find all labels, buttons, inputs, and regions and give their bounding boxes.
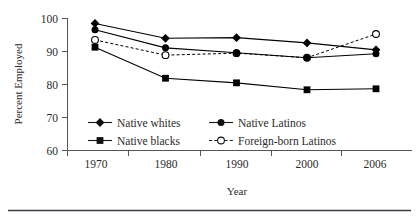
legend-item-native-latinos[interactable]: Native Latinos (209, 117, 307, 129)
legend-label: Native blacks (117, 135, 180, 147)
x-tick-label: 1990 (226, 158, 249, 170)
series-markers (91, 19, 381, 54)
y-tick-label: 80 (47, 79, 59, 91)
filled-diamond-icon (96, 118, 105, 127)
y-axis-ticks (62, 19, 68, 151)
series-native-whites (91, 19, 381, 54)
figure-container: 100 90 80 70 60 1970 1980 1990 2000 2006… (0, 0, 419, 222)
legend-item-foreign-born-latinos[interactable]: Foreign-born Latinos (209, 135, 337, 148)
data-point-marker (162, 75, 169, 82)
data-point-marker (232, 33, 241, 42)
data-point-marker (373, 31, 380, 38)
x-tick-label: 1970 (85, 158, 108, 170)
y-tick-label: 100 (41, 13, 59, 25)
legend-item-native-whites[interactable]: Native whites (88, 117, 181, 129)
data-point-marker (162, 44, 169, 51)
line-chart: 100 90 80 70 60 1970 1980 1990 2000 2006… (0, 0, 419, 222)
x-axis-ticks (68, 151, 342, 157)
data-point-marker (373, 85, 380, 92)
data-point-marker (92, 37, 99, 44)
legend: Native whites Native blacks Native Latin… (88, 117, 337, 148)
y-tick-label: 90 (47, 46, 59, 58)
x-axis-tick-labels: 1970 1980 1990 2000 2006 (85, 158, 387, 170)
data-point-marker (91, 19, 100, 28)
y-tick-label: 60 (47, 145, 59, 157)
data-point-marker (304, 54, 311, 61)
legend-label: Native Latinos (238, 117, 307, 129)
y-axis-tick-labels: 100 90 80 70 60 (41, 13, 59, 157)
x-tick-label: 2000 (296, 158, 319, 170)
legend-item-native-blacks[interactable]: Native blacks (88, 135, 180, 147)
data-point-marker (161, 34, 170, 43)
data-point-marker (92, 44, 99, 51)
y-axis-title: Percent Employed (12, 43, 24, 124)
open-circle-icon (218, 137, 225, 144)
filled-circle-icon (218, 119, 225, 126)
data-point-marker (233, 49, 240, 56)
x-tick-label: 1980 (155, 158, 178, 170)
data-point-marker (233, 79, 240, 86)
x-tick-label: 2006 (364, 158, 387, 170)
data-point-marker (304, 86, 311, 93)
x-axis-title: Year (227, 185, 248, 197)
legend-label: Foreign-born Latinos (238, 135, 337, 148)
legend-label: Native whites (117, 117, 181, 129)
filled-square-icon (97, 137, 104, 144)
data-point-marker (162, 52, 169, 59)
data-point-marker (303, 39, 312, 48)
y-tick-label: 70 (47, 112, 59, 124)
